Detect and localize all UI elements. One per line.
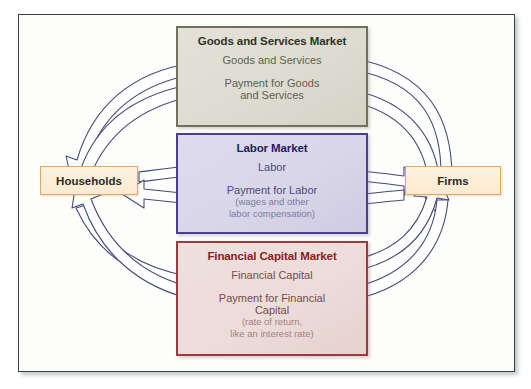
financial-payment-label-line2: Capital (178, 304, 366, 316)
labor-payment-note-line1: (wages and other (178, 196, 366, 208)
labor-flow-to-firms-label: Labor (178, 161, 366, 173)
financial-market-title: Financial Capital Market (178, 250, 366, 262)
households-box: Households (40, 166, 138, 195)
labor-payment-note-line2: labor compensation) (178, 208, 366, 220)
goods-payment-label-line1: Payment for Goods (178, 77, 366, 89)
financial-capital-market-box: Financial Capital Market Financial Capit… (176, 241, 368, 356)
firms-label: Firms (437, 175, 468, 187)
financial-payment-note-line1: (rate of return, (178, 316, 366, 328)
households-label: Households (56, 175, 122, 187)
labor-market-title: Labor Market (178, 142, 366, 154)
labor-market-box: Labor Market Labor Payment for Labor (wa… (176, 133, 368, 234)
financial-flow-to-firms-label: Financial Capital (178, 269, 366, 281)
goods-market-title: Goods and Services Market (178, 35, 366, 47)
labor-payment-label: Payment for Labor (178, 184, 366, 196)
firms-box: Firms (405, 166, 501, 195)
goods-flow-to-households-label: Goods and Services (178, 54, 366, 66)
circular-flow-diagram: Goods and Services Market Goods and Serv… (0, 0, 531, 389)
financial-payment-note-line2: like an interest rate) (178, 328, 366, 340)
goods-and-services-market-box: Goods and Services Market Goods and Serv… (176, 26, 368, 127)
financial-payment-label-line1: Payment for Financial (178, 292, 366, 304)
goods-payment-label-line2: and Services (178, 89, 366, 101)
